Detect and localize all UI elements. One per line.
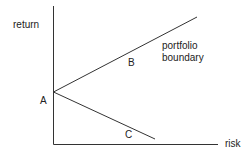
boundary-label-line1: portfolio: [162, 40, 198, 51]
x-axis-label: risk: [225, 138, 242, 149]
point-c-label: C: [125, 129, 132, 140]
risk-return-diagram: return risk A B C portfolio boundary: [0, 0, 251, 158]
point-b-label: B: [128, 57, 135, 68]
lower-boundary-line-ac: [54, 92, 156, 139]
boundary-label-line2: boundary: [162, 52, 204, 63]
point-a-label: A: [40, 95, 47, 106]
y-axis-label: return: [13, 19, 39, 30]
